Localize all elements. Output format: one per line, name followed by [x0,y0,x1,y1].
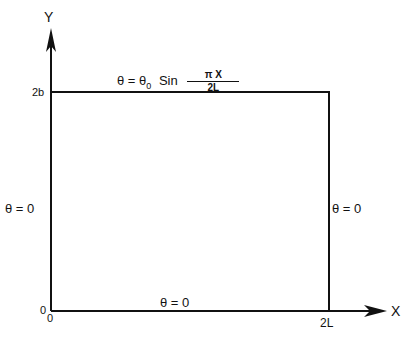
diagram-canvas [0,0,419,343]
bottom-boundary-condition: θ = 0 [160,296,189,309]
y-tick-2b: 2b [32,87,44,98]
top-bc-denominator: 2L [208,82,220,93]
y-axis-label: Y [44,10,53,24]
left-boundary-condition: θ = 0 [5,202,34,215]
top-bc-numerator: π X [187,70,239,82]
origin-label-y: 0 [40,305,46,316]
top-bc-func: Sin [159,73,178,88]
top-bc-fraction: π X 2L [187,70,239,93]
top-bc-sub: 0 [146,81,151,91]
top-bc-lhs: θ = θ [117,73,146,88]
x-tick-2L: 2L [320,317,333,329]
top-boundary-condition: θ = θ0 Sin π X 2L [117,70,239,93]
right-boundary-condition: θ = 0 [332,202,361,215]
x-axis-label: X [391,304,400,318]
origin-label-x: 0 [47,313,53,324]
